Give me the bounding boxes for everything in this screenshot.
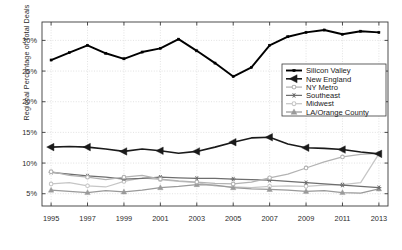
y-tick-label: 5% <box>26 189 37 198</box>
x-tick-label: 2007 <box>261 214 277 223</box>
y-tick-label: 10% <box>22 159 37 168</box>
y-tick-label: 20% <box>22 97 37 106</box>
axis-ticks: 5%10%15%20%25%30%19951997199920012003200… <box>22 22 388 223</box>
x-tick-label: 1999 <box>116 214 132 223</box>
series-new-england <box>47 134 382 158</box>
x-tick-label: 2005 <box>225 214 241 223</box>
x-tick-label: 2003 <box>189 214 205 223</box>
series-ny-metro <box>49 151 380 185</box>
chart-figure: Regional Percentage of Total Deals 5%10%… <box>0 0 402 250</box>
x-tick-label: 2009 <box>298 214 314 223</box>
x-tick-label: 1997 <box>79 214 95 223</box>
x-tick-label: 2013 <box>371 214 387 223</box>
line-chart: 5%10%15%20%25%30%19951997199920012003200… <box>0 0 402 250</box>
legend-label: LA/Orange County <box>306 108 369 117</box>
chart-legend: Silicon ValleyNew EnglandNY MetroSouthea… <box>282 64 386 117</box>
y-tick-label: 25% <box>22 67 37 76</box>
x-tick-label: 1995 <box>43 214 59 223</box>
y-tick-label: 30% <box>22 36 37 45</box>
x-tick-label: 2011 <box>335 214 351 223</box>
x-tick-label: 2001 <box>152 214 168 223</box>
y-tick-label: 15% <box>22 128 37 137</box>
